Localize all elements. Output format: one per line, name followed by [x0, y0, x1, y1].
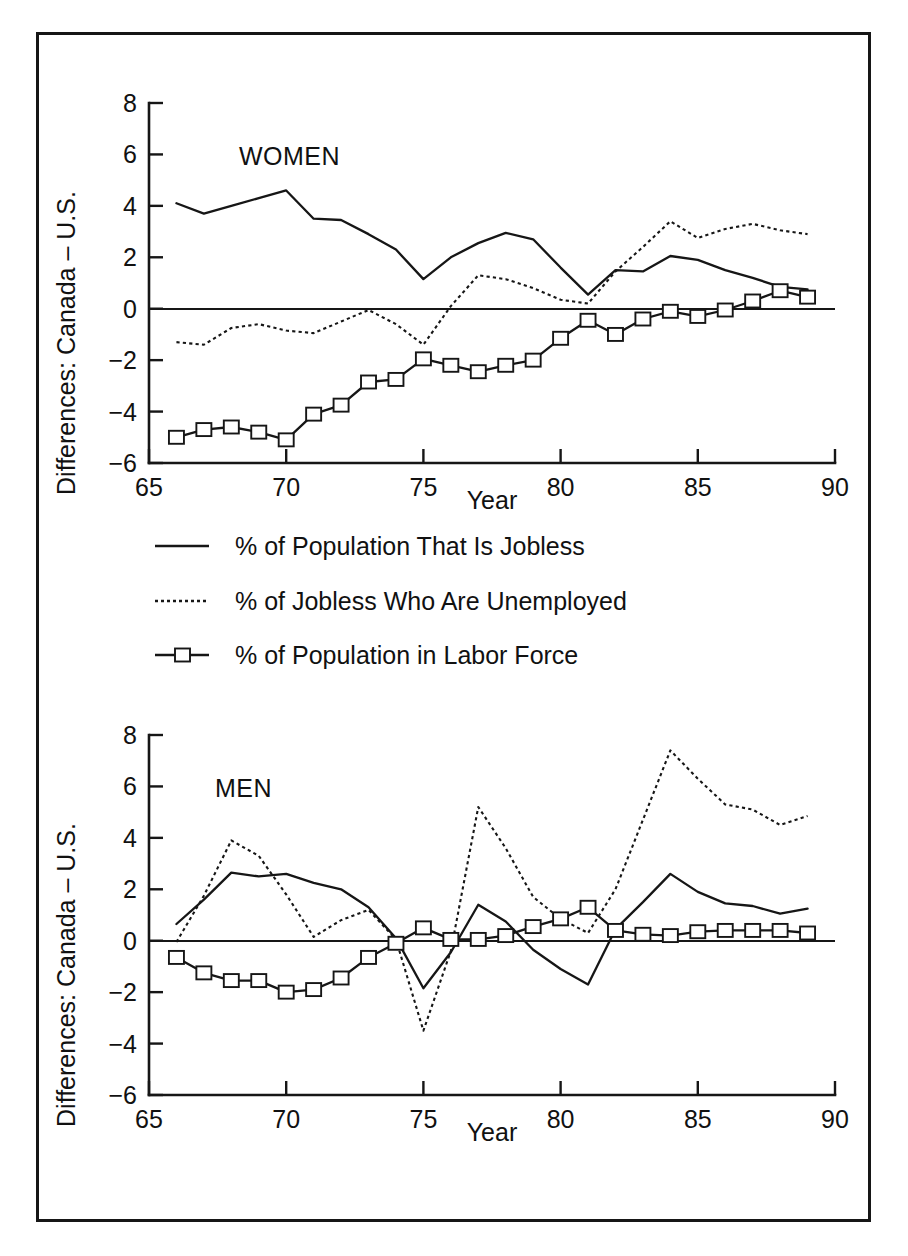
- y-tick-label: −4: [108, 398, 137, 426]
- series-square-marker: [581, 314, 596, 327]
- series-square-marker: [334, 972, 349, 985]
- series-square-marker: [334, 399, 349, 412]
- x-tick-label: 80: [547, 473, 575, 501]
- series-line-square: [176, 907, 807, 992]
- series-square-marker: [416, 921, 431, 934]
- y-tick-label: 0: [123, 927, 137, 955]
- y-tick-label: 2: [123, 875, 137, 903]
- x-tick-label: 75: [409, 1105, 437, 1133]
- series-square-marker: [224, 974, 239, 987]
- figure-frame: Differences: Canada – U.S. 86420−2−4−6 6…: [36, 32, 871, 1222]
- x-tick-label: 85: [684, 473, 712, 501]
- legend-square-marker-icon: [175, 649, 190, 662]
- series-square-marker: [581, 901, 596, 914]
- series-square-marker: [224, 421, 239, 434]
- series-line-solid: [176, 190, 807, 294]
- series-square-marker: [663, 305, 678, 318]
- series-square-marker: [443, 359, 458, 372]
- series-line-dotted: [176, 221, 807, 344]
- legend-label-unemployed: % of Jobless Who Are Unemployed: [235, 587, 627, 615]
- x-tick-label: 85: [684, 1105, 712, 1133]
- series-square-marker: [251, 426, 266, 439]
- women-y-axis-title: Differences: Canada – U.S.: [52, 191, 80, 495]
- chart-panel-men: Differences: Canada – U.S. 86420−2−4−6 6…: [39, 675, 874, 1220]
- x-tick-label: 65: [135, 1105, 163, 1133]
- series-square-marker: [608, 924, 623, 937]
- legend-svg: % of Population That Is Jobless % of Job…: [39, 513, 874, 688]
- y-tick-label: 8: [123, 89, 137, 117]
- series-square-marker: [608, 328, 623, 341]
- y-tick-label: 8: [123, 721, 137, 749]
- y-tick-label: −4: [108, 1030, 137, 1058]
- x-tick-label: 70: [272, 473, 300, 501]
- series-square-marker: [416, 352, 431, 365]
- series-square-marker: [663, 929, 678, 942]
- series-square-marker: [443, 933, 458, 946]
- women-chart-svg: Differences: Canada – U.S. 86420−2−4−6 6…: [39, 43, 874, 513]
- y-tick-label: 4: [123, 824, 137, 852]
- series-square-marker: [800, 927, 815, 940]
- series-square-marker: [635, 313, 650, 326]
- series-square-marker: [553, 912, 568, 925]
- women-x-axis-title: Year: [467, 486, 518, 513]
- series-square-marker: [361, 376, 376, 389]
- series-square-marker: [773, 924, 788, 937]
- legend-item-labor-force: % of Population in Labor Force: [155, 641, 578, 669]
- men-chart-svg: Differences: Canada – U.S. 86420−2−4−6 6…: [39, 675, 874, 1220]
- series-square-marker: [526, 354, 541, 367]
- series-square-marker: [471, 365, 486, 378]
- series-square-marker: [498, 359, 513, 372]
- series-square-marker: [553, 332, 568, 345]
- series-square-marker: [690, 925, 705, 938]
- y-tick-label: −2: [108, 978, 137, 1006]
- series-square-marker: [251, 974, 266, 987]
- y-tick-label: −2: [108, 346, 137, 374]
- men-y-axis-title: Differences: Canada – U.S.: [52, 823, 80, 1127]
- series-square-marker: [690, 310, 705, 323]
- chart-panel-women: Differences: Canada – U.S. 86420−2−4−6 6…: [39, 43, 874, 513]
- series-square-marker: [279, 986, 294, 999]
- y-tick-label: 4: [123, 192, 137, 220]
- series-square-marker: [718, 924, 733, 937]
- series-square-marker: [169, 951, 184, 964]
- women-panel-label: WOMEN: [239, 142, 340, 170]
- series-square-marker: [306, 408, 321, 421]
- men-y-ticks: 86420−2−4−6: [108, 721, 163, 1109]
- series-square-marker: [361, 951, 376, 964]
- y-tick-label: 6: [123, 140, 137, 168]
- series-square-marker: [498, 929, 513, 942]
- y-tick-label: −6: [108, 449, 137, 477]
- series-square-marker: [526, 920, 541, 933]
- series-square-marker: [745, 295, 760, 308]
- legend-item-jobless: % of Population That Is Jobless: [155, 532, 585, 560]
- series-square-marker: [773, 284, 788, 297]
- women-series-group: [169, 190, 815, 446]
- x-tick-label: 75: [409, 473, 437, 501]
- chart-legend: % of Population That Is Jobless % of Job…: [39, 513, 874, 688]
- series-square-marker: [745, 924, 760, 937]
- series-square-marker: [196, 423, 211, 436]
- series-square-marker: [169, 431, 184, 444]
- series-square-marker: [306, 983, 321, 996]
- men-x-axis-title: Year: [467, 1118, 518, 1146]
- series-square-marker: [718, 304, 733, 317]
- legend-label-labor-force: % of Population in Labor Force: [235, 641, 578, 669]
- series-square-marker: [196, 966, 211, 979]
- men-panel-label: MEN: [215, 774, 272, 802]
- series-square-marker: [388, 373, 403, 386]
- y-tick-label: −6: [108, 1081, 137, 1109]
- x-tick-label: 65: [135, 473, 163, 501]
- series-square-marker: [388, 937, 403, 950]
- series-square-marker: [800, 291, 815, 304]
- legend-item-unemployed: % of Jobless Who Are Unemployed: [155, 587, 627, 615]
- series-square-marker: [279, 433, 294, 446]
- x-tick-label: 90: [821, 473, 849, 501]
- y-tick-label: 0: [123, 295, 137, 323]
- legend-label-jobless: % of Population That Is Jobless: [235, 532, 585, 560]
- y-tick-label: 6: [123, 772, 137, 800]
- x-tick-label: 70: [272, 1105, 300, 1133]
- series-square-marker: [471, 933, 486, 946]
- series-square-marker: [635, 928, 650, 941]
- x-tick-label: 90: [821, 1105, 849, 1133]
- series-line-square: [176, 291, 807, 440]
